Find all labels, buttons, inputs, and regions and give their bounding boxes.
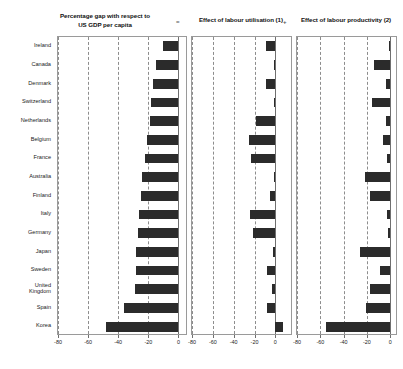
bar bbox=[106, 322, 178, 332]
bar bbox=[156, 60, 179, 70]
gridline bbox=[88, 37, 89, 334]
bar bbox=[153, 79, 179, 89]
bar bbox=[274, 60, 276, 70]
bar bbox=[273, 247, 275, 257]
bar bbox=[135, 284, 179, 294]
bar bbox=[275, 322, 282, 332]
gridline bbox=[255, 37, 256, 334]
bar bbox=[272, 284, 276, 294]
bar bbox=[266, 41, 275, 51]
bar bbox=[136, 266, 178, 276]
gridline bbox=[118, 37, 119, 334]
gridline bbox=[367, 37, 368, 334]
plot-area-labour-utilisation bbox=[191, 36, 292, 335]
bar bbox=[370, 284, 390, 294]
tick-label: -60 bbox=[76, 339, 100, 345]
tick-label: -80 bbox=[46, 339, 70, 345]
category-label: Denmark bbox=[6, 80, 51, 86]
bar bbox=[253, 228, 275, 238]
tick-mark bbox=[367, 335, 368, 338]
bar bbox=[374, 60, 390, 70]
bar bbox=[389, 41, 390, 51]
bar bbox=[372, 98, 391, 108]
tick-mark bbox=[192, 335, 193, 338]
bar bbox=[360, 247, 390, 257]
tick-mark bbox=[320, 335, 321, 338]
gridline bbox=[213, 37, 214, 334]
bar bbox=[387, 154, 390, 164]
bar bbox=[249, 135, 275, 145]
bar bbox=[380, 266, 390, 276]
category-label: Belgium bbox=[6, 136, 51, 142]
category-label: Spain bbox=[6, 304, 51, 310]
bar bbox=[274, 98, 276, 108]
bar bbox=[386, 116, 390, 126]
zero-line bbox=[390, 37, 391, 334]
bar bbox=[251, 154, 275, 164]
tick-mark bbox=[390, 335, 391, 338]
tick-label: -60 bbox=[308, 339, 332, 345]
tick-mark bbox=[297, 335, 298, 338]
gridline bbox=[192, 37, 193, 334]
bar bbox=[139, 210, 178, 220]
tick-label: -80 bbox=[285, 339, 309, 345]
bar bbox=[270, 191, 275, 201]
tick-mark bbox=[275, 335, 276, 338]
bar bbox=[383, 135, 390, 145]
panel-title-labour-productivity: Effect of labour productivity (2) bbox=[290, 16, 402, 25]
bar bbox=[266, 79, 275, 89]
bar bbox=[163, 41, 178, 51]
bar bbox=[142, 172, 178, 182]
tick-mark bbox=[213, 335, 214, 338]
tick-label: 0 bbox=[378, 339, 402, 345]
category-label: France bbox=[6, 154, 51, 160]
bar bbox=[388, 228, 390, 238]
gridline bbox=[297, 37, 298, 334]
zero-line bbox=[275, 37, 276, 334]
tick-mark bbox=[58, 335, 59, 338]
panel-title-line2: US GDP per capita bbox=[40, 21, 170, 30]
category-label: Korea bbox=[6, 322, 51, 328]
bar bbox=[366, 303, 390, 313]
category-label: Canada bbox=[6, 61, 51, 67]
category-label: Netherlands bbox=[6, 117, 51, 123]
bar bbox=[387, 210, 390, 220]
gridline bbox=[320, 37, 321, 334]
bar bbox=[151, 98, 178, 108]
bar bbox=[326, 322, 390, 332]
category-label: Japan bbox=[6, 248, 51, 254]
bar bbox=[267, 303, 275, 313]
bar bbox=[141, 191, 179, 201]
category-label: Ireland bbox=[6, 42, 51, 48]
zero-line bbox=[178, 37, 179, 334]
bar bbox=[147, 135, 179, 145]
separator-equals: = bbox=[176, 19, 180, 25]
panel-title-gdp-gap: Percentage gap with respect to US GDP pe… bbox=[40, 12, 170, 29]
category-label: Finland bbox=[6, 192, 51, 198]
tick-mark bbox=[148, 335, 149, 338]
gridline bbox=[234, 37, 235, 334]
bar bbox=[267, 266, 275, 276]
bar bbox=[370, 191, 390, 201]
plot-area-gdp-gap bbox=[57, 36, 187, 335]
figure-root: Percentage gap with respect to US GDP pe… bbox=[0, 0, 403, 369]
tick-mark bbox=[234, 335, 235, 338]
bar bbox=[365, 172, 391, 182]
gridline bbox=[344, 37, 345, 334]
category-label: Australia bbox=[6, 173, 51, 179]
tick-label: -40 bbox=[332, 339, 356, 345]
category-label: Italy bbox=[6, 210, 51, 216]
category-label: United Kingdom bbox=[6, 282, 51, 295]
bar bbox=[250, 210, 275, 220]
category-label: Germany bbox=[6, 229, 51, 235]
tick-mark bbox=[118, 335, 119, 338]
tick-label: -20 bbox=[136, 339, 160, 345]
tick-mark bbox=[178, 335, 179, 338]
plot-area-labour-productivity bbox=[296, 36, 397, 335]
bar bbox=[138, 228, 179, 238]
category-label: Switzerland bbox=[6, 98, 51, 104]
bar bbox=[124, 303, 178, 313]
bar bbox=[386, 79, 391, 89]
tick-mark bbox=[255, 335, 256, 338]
tick-label: -40 bbox=[106, 339, 130, 345]
